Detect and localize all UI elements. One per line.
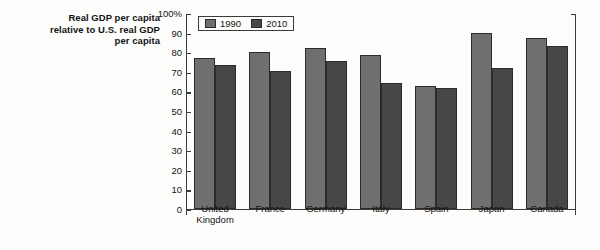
bar-2010-united-kingdom	[215, 65, 236, 209]
y-axis-title-line-2: relative to U.S. real GDP	[12, 24, 160, 36]
x-label-line: Germany	[298, 203, 353, 214]
legend-item-1990: 1990	[205, 19, 241, 29]
y-tick-label: 10	[171, 186, 182, 196]
legend-item-2010: 2010	[251, 19, 287, 29]
x-label-canada: Canada	[519, 203, 574, 214]
bar-group	[519, 14, 574, 209]
x-label-line: Spain	[409, 203, 464, 214]
bar-2010-japan	[492, 68, 513, 208]
bar-group	[353, 14, 408, 209]
x-label-germany: Germany	[298, 203, 353, 214]
y-tick-label: 100%	[158, 9, 182, 19]
x-label-italy: Italy	[353, 203, 408, 214]
bar-2010-italy	[381, 83, 402, 208]
bar-group	[464, 14, 519, 209]
x-label-line: Japan	[464, 203, 519, 214]
y-axis-title: Real GDP per capita relative to U.S. rea…	[12, 12, 160, 47]
bar-1990-japan	[471, 33, 492, 208]
legend-swatch-1990	[205, 19, 216, 28]
bars-layer	[187, 14, 574, 209]
chart-legend: 19902010	[198, 16, 294, 31]
bottom-right-foot-tick	[575, 210, 576, 215]
y-tick-label: 40	[171, 127, 182, 137]
y-tick-label: 60	[171, 88, 182, 98]
bar-group	[243, 14, 298, 209]
y-tick-label: 90	[171, 29, 182, 39]
bar-1990-canada	[526, 38, 547, 209]
legend-label-2010: 2010	[266, 19, 287, 29]
bar-1990-united-kingdom	[194, 58, 215, 209]
plot-area: 0102030405060708090100%	[186, 14, 576, 210]
bar-1990-france	[249, 52, 270, 209]
bar-chart-figure: Real GDP per capita relative to U.S. rea…	[0, 0, 600, 250]
legend-swatch-2010	[251, 19, 262, 28]
y-tick-label: 30	[171, 146, 182, 156]
y-tick-label: 20	[171, 166, 182, 176]
bar-group	[298, 14, 353, 209]
y-tick-label: 80	[171, 48, 182, 58]
x-label-line: United	[187, 203, 242, 214]
x-label-japan: Japan	[464, 203, 519, 214]
x-label-spain: Spain	[409, 203, 464, 214]
bar-2010-germany	[326, 61, 347, 209]
right-axis-line	[575, 14, 576, 210]
y-axis-title-line-1: Real GDP per capita	[12, 12, 160, 24]
y-tick-label: 0	[177, 205, 182, 215]
bar-2010-canada	[547, 46, 568, 209]
bar-2010-spain	[436, 88, 457, 209]
bar-group	[187, 14, 242, 209]
y-axis-title-line-3: per capita	[12, 35, 160, 47]
legend-label-1990: 1990	[220, 19, 241, 29]
x-label-line: Canada	[519, 203, 574, 214]
x-label-france: France	[243, 203, 298, 214]
x-label-line: Italy	[353, 203, 408, 214]
x-label-line: France	[243, 203, 298, 214]
bar-group	[409, 14, 464, 209]
bar-1990-italy	[360, 55, 381, 209]
bar-2010-france	[270, 71, 291, 208]
x-label-united-kingdom: UnitedKingdom	[187, 203, 242, 225]
bar-1990-spain	[415, 86, 436, 209]
y-tick-label: 70	[171, 68, 182, 78]
y-tick-label: 50	[171, 107, 182, 117]
x-label-line: Kingdom	[187, 214, 242, 225]
bar-1990-germany	[305, 48, 326, 209]
